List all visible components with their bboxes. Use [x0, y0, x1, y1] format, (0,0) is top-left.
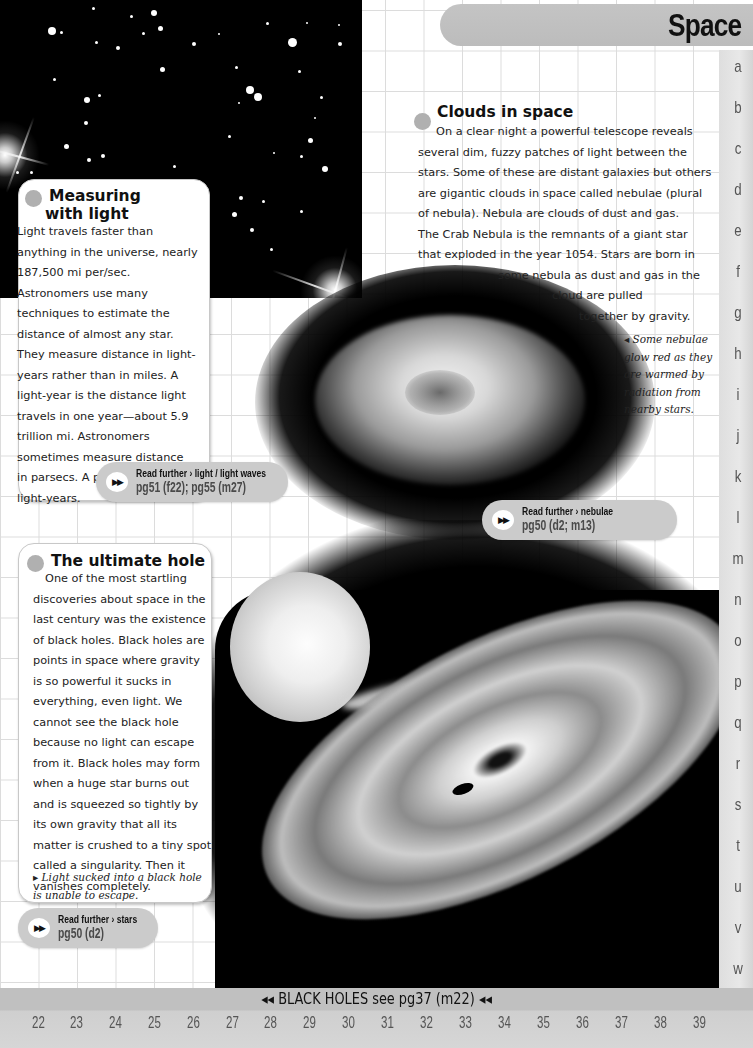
- fast-forward-icon: ▶▶: [28, 918, 50, 938]
- measuring-with-light-panel: Measuring with light Light travels faste…: [18, 179, 210, 501]
- measuring-title-line1: Measuring: [49, 188, 141, 205]
- grid-column-index: 22 23 24 25 26 27 28 29 30 31 32 33 34 3…: [0, 1014, 753, 1038]
- fast-forward-icon: ▶▶: [492, 510, 514, 530]
- read-further-stars-link[interactable]: ▶▶ Read further › stars pg50 (d2): [18, 908, 158, 948]
- black-hole-caption: ▸ Light sucked into a black hole is unab…: [33, 869, 213, 904]
- section-title: Space: [668, 7, 741, 44]
- clouds-title: Clouds in space: [437, 104, 573, 121]
- read-further-nebulae-link[interactable]: ▶▶ Read further › nebulae pg50 (d2; m13): [482, 500, 677, 540]
- grid-row-index: a b c d e f g h i j k l m n o p q r s t …: [719, 50, 753, 990]
- ultimate-hole-body: One of the most startling discoveries ab…: [33, 569, 213, 897]
- ultimate-hole-title: The ultimate hole: [51, 553, 205, 570]
- footer-bar: ◂◂ BLACK HOLES see pg37 (m22) ◂◂ 22 23 2…: [0, 988, 753, 1048]
- black-holes-cross-reference[interactable]: ◂◂ BLACK HOLES see pg37 (m22) ◂◂: [53, 990, 701, 1008]
- clouds-body: On a clear night a powerful telescope re…: [418, 122, 718, 327]
- section-header-tab: Space: [440, 4, 753, 46]
- measuring-title-line2: with light: [45, 206, 129, 223]
- ultimate-hole-panel: The ultimate hole One of the most startl…: [18, 543, 212, 903]
- bullet-icon: [25, 190, 42, 207]
- fast-forward-icon: ▶▶: [106, 472, 128, 492]
- nebula-caption: ◂ Some nebulae glow red as they are warm…: [624, 331, 719, 419]
- read-further-light-link[interactable]: ▶▶ Read further › light / light waves pg…: [96, 462, 288, 502]
